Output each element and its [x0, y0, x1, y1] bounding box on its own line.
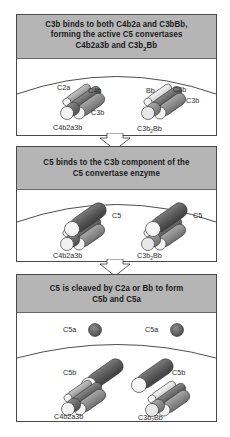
cell-membrane-arc	[17, 345, 216, 359]
step-1-illustration: C2a C4b C3b C4b2a3b Bb C3b C3b C3b2Bb	[17, 15, 216, 135]
label-c3b: C3b	[91, 108, 104, 117]
step-3-illustration: C5a C5a C5b C5b C4b2a3b C3b2Bb	[17, 275, 216, 421]
label-c4b2a3b: C4b2a3b	[54, 412, 83, 421]
label-c5a-right: C5a	[145, 325, 158, 334]
label-c4b: C4b	[88, 86, 101, 95]
label-c3b-top: C3b	[173, 85, 186, 94]
label-c4b2a3b: C4b2a3b	[53, 251, 82, 260]
label-c5-right: C5	[193, 211, 202, 220]
label-c5a-left: C5a	[63, 325, 76, 334]
label-c3b2bb: C3b2Bb	[137, 251, 162, 261]
label-c4b2a3b: C4b2a3b	[53, 123, 82, 132]
step-3-panel: C5 is cleaved by C2a or Bb to form C5b a…	[16, 274, 217, 422]
label-c2a: C2a	[57, 83, 70, 92]
label-c5b-right: C5b	[172, 368, 185, 377]
step-2-illustration: C5 C5 C4b2a3b C3b2Bb	[17, 147, 216, 261]
step-1-panel: C3b binds to both C4b2a and C3bBb, formi…	[16, 14, 217, 136]
label-c5b-left: C5b	[63, 368, 76, 377]
c5a-fragment-left	[89, 324, 102, 337]
label-c3b2bb: C3b2Bb	[138, 413, 163, 421]
label-bb: Bb	[146, 86, 155, 95]
label-c5-left: C5	[112, 211, 121, 220]
step-2-panel: C5 binds to the C3b component of the C5 …	[16, 146, 217, 262]
c5a-fragment-right	[171, 324, 184, 337]
label-c3b-right: C3b	[186, 96, 199, 105]
label-c3b2bb: C3b2Bb	[137, 124, 162, 134]
